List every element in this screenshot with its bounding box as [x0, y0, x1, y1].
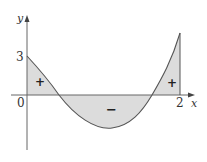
left-region-plus-sign: +: [35, 75, 45, 89]
shaded-region: [27, 33, 180, 128]
origin-label: 0: [17, 96, 25, 110]
x-axis-label: x: [191, 97, 198, 110]
signed-area-diagram: y 3 0 2 x + − +: [0, 0, 207, 162]
right-region-plus-sign: +: [167, 76, 177, 90]
middle-region-minus-sign: −: [106, 102, 117, 117]
x-tick-label-2: 2: [176, 96, 184, 110]
y-axis-label: y: [16, 12, 24, 25]
y-tick-label-3: 3: [16, 50, 24, 64]
y-axis-arrow-icon: [25, 15, 30, 22]
